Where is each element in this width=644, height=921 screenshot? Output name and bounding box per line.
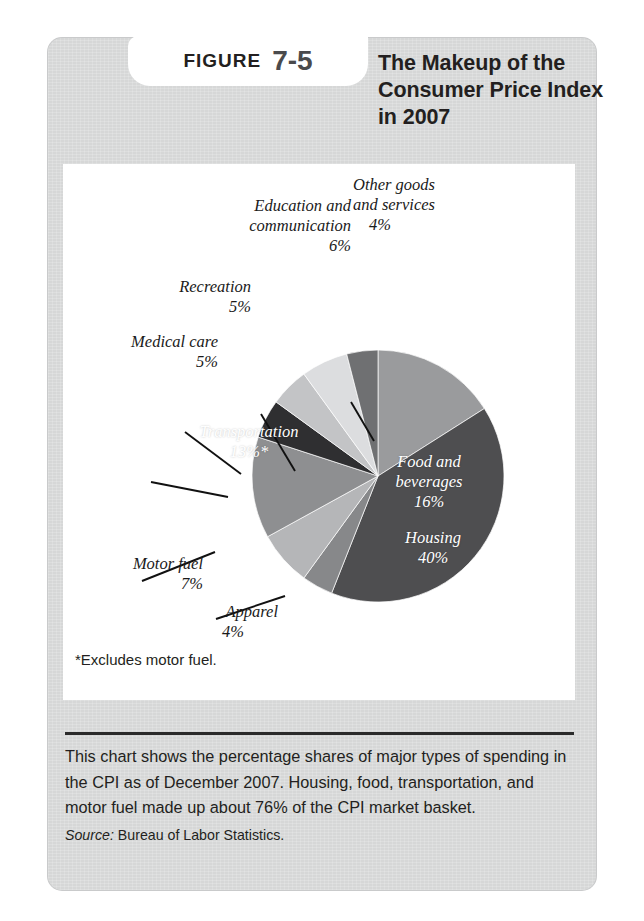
caption-text: This chart shows the percentage shares o… [65, 747, 566, 816]
figure-label: FIGURE [183, 50, 261, 72]
slice-label-transportation: Transportation 13%* [169, 422, 329, 462]
slice-label-food-and-beverages: Food and beverages 16% [359, 452, 499, 512]
figure-card: FIGURE 7-5 The Makeup of the Consumer Pr… [48, 38, 596, 890]
source-line: Source: Bureau of Labor Statistics. [65, 824, 575, 846]
figure-caption: This chart shows the percentage shares o… [65, 744, 575, 846]
callout-medical-care: Medical care 5% [63, 332, 218, 372]
figure-number-tab: FIGURE 7-5 [128, 36, 368, 86]
chart-footnote: *Excludes motor fuel. [75, 651, 217, 668]
callout-motor-fuel: Motor fuel 7% [63, 554, 203, 594]
callout-recreation: Recreation 5% [63, 277, 251, 317]
figure-number: 7-5 [272, 45, 312, 77]
chart-panel: Food and beverages 16% Housing 40% Trans… [63, 164, 575, 700]
caption-divider [65, 732, 574, 735]
source-text: Bureau of Labor Statistics. [118, 827, 284, 843]
callout-other-goods-and-services: Other goods and services 4% [353, 175, 435, 235]
leader-line-medical [151, 482, 228, 497]
page-title: The Makeup of the Consumer Price Index i… [378, 50, 618, 131]
pie-chart: Food and beverages 16% Housing 40% Trans… [63, 164, 575, 700]
callout-apparel: Apparel 4% [63, 602, 278, 642]
slice-label-housing: Housing 40% [369, 528, 497, 568]
callout-education-and-communication: Education and communication 6% [151, 196, 351, 256]
source-label: Source: [65, 827, 114, 843]
